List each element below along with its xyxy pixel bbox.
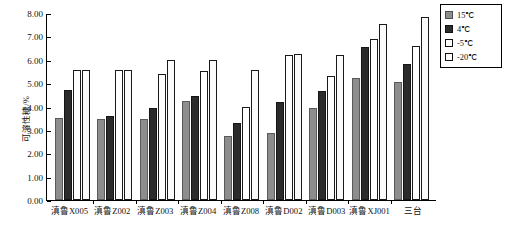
bar-group — [391, 14, 433, 200]
bar-groups — [47, 14, 436, 200]
bar — [267, 133, 275, 200]
x-axis-label: 滇鲁Z008 — [220, 205, 263, 225]
legend-label: 15℃ — [457, 10, 474, 20]
x-axis-group-separator — [391, 200, 392, 204]
bar — [294, 54, 302, 200]
y-axis-tick-label: 8.00 — [1, 10, 43, 19]
bar-group — [51, 14, 93, 200]
bar — [318, 91, 326, 200]
legend-label: -20℃ — [457, 52, 477, 62]
x-axis-label: 滇鲁X005 — [48, 205, 91, 225]
bar-group — [348, 14, 390, 200]
bar — [209, 60, 217, 200]
legend-item: 4℃ — [445, 22, 498, 36]
bar — [97, 119, 105, 200]
bar — [106, 116, 114, 200]
bar-group — [221, 14, 263, 200]
x-axis-group-separator — [136, 200, 137, 204]
soluble-sugar-bar-chart: 可溶性糖/% 8.007.006.005.004.003.002.001.000… — [0, 0, 511, 237]
plot-area: 8.007.006.005.004.003.002.001.000.00 — [46, 14, 436, 201]
legend-swatch-icon — [445, 25, 453, 33]
bar — [327, 76, 335, 200]
bar — [64, 90, 72, 200]
legend-item: -20℃ — [445, 50, 498, 64]
bar — [124, 70, 132, 200]
x-axis-label: 滇鲁D003 — [305, 205, 348, 225]
bar — [370, 39, 378, 200]
bar — [336, 55, 344, 200]
bar — [200, 71, 208, 200]
bar — [182, 101, 190, 200]
bar — [55, 118, 63, 200]
y-axis-tick-label: 5.00 — [1, 80, 43, 89]
y-axis-tick-label: 2.00 — [1, 150, 43, 159]
bar — [115, 70, 123, 200]
bar — [233, 123, 241, 200]
bar — [394, 82, 402, 200]
x-axis-label: 滇鲁Z003 — [134, 205, 177, 225]
y-axis-tick-label: 6.00 — [1, 56, 43, 65]
x-axis-group-separator — [306, 200, 307, 204]
x-axis-label: 滇鲁XJ001 — [348, 205, 391, 225]
bar — [149, 108, 157, 200]
bar-group — [178, 14, 220, 200]
x-axis-label: 滇鲁Z002 — [91, 205, 134, 225]
y-axis-tick-mark — [47, 201, 51, 202]
bar — [82, 70, 90, 200]
legend-label: -5℃ — [457, 38, 473, 48]
bar-group — [263, 14, 305, 200]
bar — [140, 119, 148, 200]
y-axis-tick-label: 0.00 — [1, 197, 43, 206]
bar — [251, 70, 259, 200]
legend: 15℃4℃-5℃-20℃ — [440, 4, 502, 68]
legend-swatch-icon — [445, 53, 453, 61]
bar — [191, 96, 199, 200]
x-axis-labels: 滇鲁X005滇鲁Z002滇鲁Z003滇鲁Z004滇鲁Z008滇鲁D002滇鲁D0… — [46, 205, 436, 225]
bar — [285, 55, 293, 200]
legend-label: 4℃ — [457, 24, 470, 34]
x-axis-group-separator — [263, 200, 264, 204]
x-axis-label: 滇鲁Z004 — [177, 205, 220, 225]
y-axis-tick-label: 7.00 — [1, 33, 43, 42]
bar — [421, 17, 429, 200]
y-axis-tick-label: 3.00 — [1, 126, 43, 135]
bar — [224, 136, 232, 200]
x-axis-group-separator — [178, 200, 179, 204]
legend-item: -5℃ — [445, 36, 498, 50]
legend-swatch-icon — [445, 11, 453, 19]
bar — [352, 78, 360, 200]
bar — [158, 74, 166, 200]
legend-item: 15℃ — [445, 8, 498, 22]
bar — [309, 108, 317, 200]
legend-swatch-icon — [445, 39, 453, 47]
bar — [412, 46, 420, 200]
bar — [379, 24, 387, 200]
x-axis-label: 滇鲁D002 — [262, 205, 305, 225]
bar-group — [136, 14, 178, 200]
bar — [73, 70, 81, 200]
bar — [403, 64, 411, 200]
y-axis-tick-label: 1.00 — [1, 173, 43, 182]
x-axis-group-separator — [221, 200, 222, 204]
x-axis-group-separator — [93, 200, 94, 204]
x-axis-group-separator — [348, 200, 349, 204]
bar — [242, 107, 250, 201]
bar-group — [93, 14, 135, 200]
bar — [167, 60, 175, 200]
x-axis-label: 三台 — [391, 205, 434, 225]
bar — [361, 47, 369, 200]
y-axis-tick-label: 4.00 — [1, 103, 43, 112]
bar-group — [306, 14, 348, 200]
bar — [276, 102, 284, 200]
